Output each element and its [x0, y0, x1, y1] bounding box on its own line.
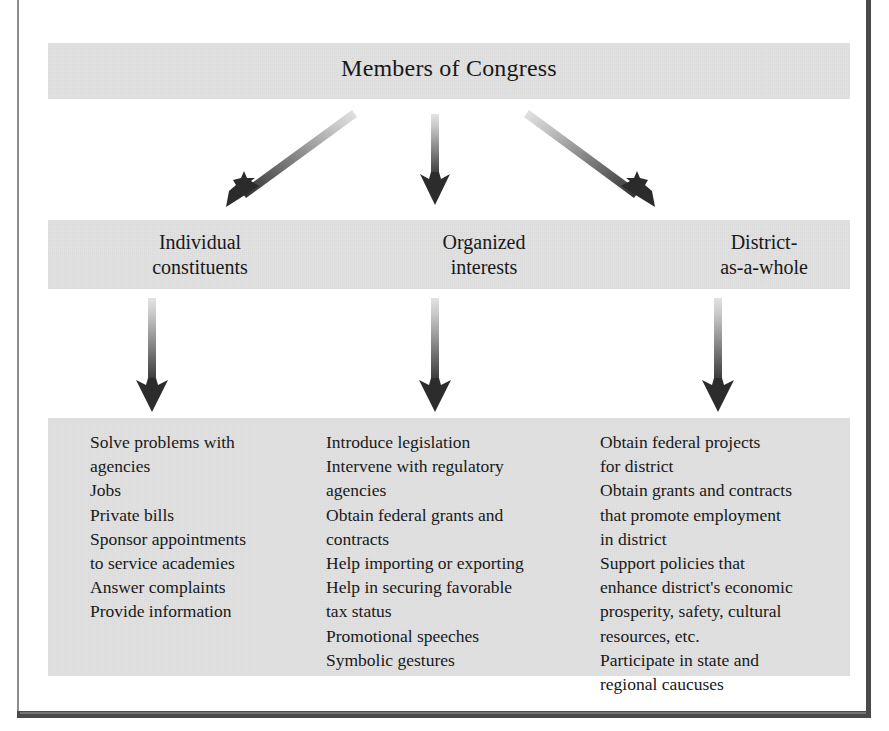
- page-border-left: [17, 0, 19, 716]
- category-district-as-a-whole: District- as-a-whole: [648, 230, 880, 280]
- arrow-to-district-as-a-whole: [524, 110, 655, 207]
- title-panel: Members of Congress: [48, 43, 850, 99]
- services-list-individual-constituents: Solve problems with agencies Jobs Privat…: [90, 430, 340, 624]
- arrow-individual-constituents-to-services: [136, 298, 168, 412]
- page-border-right: [866, 0, 871, 716]
- services-list-district-as-a-whole: Obtain federal projects for district Obt…: [600, 430, 862, 696]
- arrow-to-individual-constituents: [226, 110, 357, 207]
- page-border-bottom-highlight: [20, 712, 866, 714]
- services-list-organized-interests: Introduce legislation Intervene with reg…: [326, 430, 588, 672]
- category-individual-constituents: Individual constituents: [84, 230, 316, 280]
- category-organized-interests: Organized interests: [368, 230, 600, 280]
- category-panel: Individual constituents Organized intere…: [48, 220, 850, 289]
- figure-title: Members of Congress: [48, 55, 850, 82]
- content-panel: Solve problems with agencies Jobs Privat…: [48, 418, 850, 676]
- arrow-organized-interests-to-services: [419, 298, 451, 412]
- arrow-district-as-a-whole-to-services: [702, 298, 734, 412]
- arrow-to-organized-interests: [420, 114, 450, 205]
- figure-page: Members of Congress Individual constitue…: [0, 0, 889, 731]
